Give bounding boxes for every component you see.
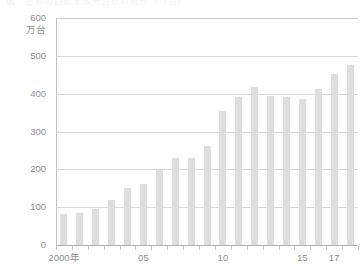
chart-figure: 図 世界の自動車販売台数の推移（万台） 0100200300400500600万… xyxy=(0,0,362,268)
y-tick-label-0: 0 xyxy=(41,240,46,250)
bar xyxy=(235,97,242,245)
bar xyxy=(251,87,258,245)
x-tick xyxy=(167,246,168,250)
x-tick xyxy=(310,246,311,250)
bar xyxy=(219,111,226,245)
bar xyxy=(315,89,322,245)
x-tick xyxy=(72,246,73,250)
x-tick xyxy=(135,246,136,250)
bar xyxy=(188,158,195,245)
bar-series xyxy=(56,18,358,245)
bar xyxy=(60,214,67,245)
x-tick xyxy=(199,246,200,250)
x-tick xyxy=(215,246,216,250)
x-tick xyxy=(342,246,343,250)
x-tick xyxy=(279,246,280,250)
bar xyxy=(331,74,338,245)
x-axis-labels: 2000年05101517 xyxy=(0,252,362,268)
plot-area xyxy=(56,18,358,245)
bar xyxy=(108,200,115,245)
bar xyxy=(140,184,147,245)
y-tick-label-500: 500 xyxy=(30,51,46,61)
bar xyxy=(267,96,274,245)
y-tick-label-100: 100 xyxy=(30,202,46,212)
x-tick xyxy=(120,246,121,250)
y-axis-unit-label: 万台 xyxy=(26,25,46,35)
y-tick-label-300: 300 xyxy=(30,127,46,137)
x-tick-label-2000年: 2000年 xyxy=(48,252,79,264)
bar xyxy=(204,146,211,245)
x-tick xyxy=(56,246,57,250)
bar xyxy=(124,188,131,246)
y-tick-label-200: 200 xyxy=(30,164,46,174)
x-tick-label-17: 17 xyxy=(329,252,340,264)
y-tick-label-600: 600 xyxy=(30,13,46,23)
x-tick xyxy=(183,246,184,250)
bar xyxy=(283,97,290,245)
x-tick xyxy=(263,246,264,250)
x-tick-label-05: 05 xyxy=(138,252,149,264)
x-tick xyxy=(104,246,105,250)
x-tick xyxy=(326,246,327,250)
x-tick-label-10: 10 xyxy=(218,252,229,264)
x-tick xyxy=(247,246,248,250)
x-tick xyxy=(231,246,232,250)
x-tick xyxy=(358,246,359,250)
y-axis-labels: 0100200300400500600万台 xyxy=(0,0,52,268)
bar xyxy=(156,170,163,245)
bar xyxy=(92,209,99,245)
x-tick xyxy=(151,246,152,250)
x-tick-label-15: 15 xyxy=(297,252,308,264)
y-tick-label-400: 400 xyxy=(30,89,46,99)
bar xyxy=(347,65,354,245)
x-axis-ticks xyxy=(56,246,358,251)
bar xyxy=(76,213,83,245)
x-tick xyxy=(88,246,89,250)
x-tick xyxy=(294,246,295,250)
bar xyxy=(299,99,306,245)
chart-caption: 図 世界の自動車販売台数の推移（万台） xyxy=(0,0,362,11)
bar xyxy=(172,158,179,245)
